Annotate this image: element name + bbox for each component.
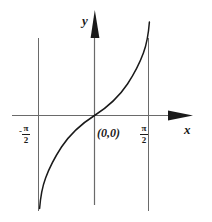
fraction-pi-over-2: π 2 <box>22 124 30 145</box>
x-axis-label: x <box>184 123 191 136</box>
fraction-pi-over-2: π 2 <box>140 124 148 145</box>
fraction-numerator: π <box>141 124 148 133</box>
y-axis-label: y <box>82 14 88 27</box>
minus-sign: - <box>19 127 22 136</box>
fraction-denominator: 2 <box>23 136 30 145</box>
fraction-denominator: 2 <box>141 136 148 145</box>
graph-canvas <box>0 0 212 222</box>
tangent-function-graph: y x (0,0) - π 2 π 2 <box>0 0 212 222</box>
tangent-curve-left-branch <box>40 116 95 209</box>
fraction-numerator: π <box>23 124 30 133</box>
y-axis-arrowhead <box>91 10 100 38</box>
origin-label: (0,0) <box>97 127 120 139</box>
x-axis-arrowhead <box>168 111 193 121</box>
x-tick-label-negative-pi-over-2: - π 2 <box>19 124 30 145</box>
tangent-curve-right-branch <box>95 22 150 116</box>
x-tick-label-pi-over-2: π 2 <box>140 124 148 145</box>
